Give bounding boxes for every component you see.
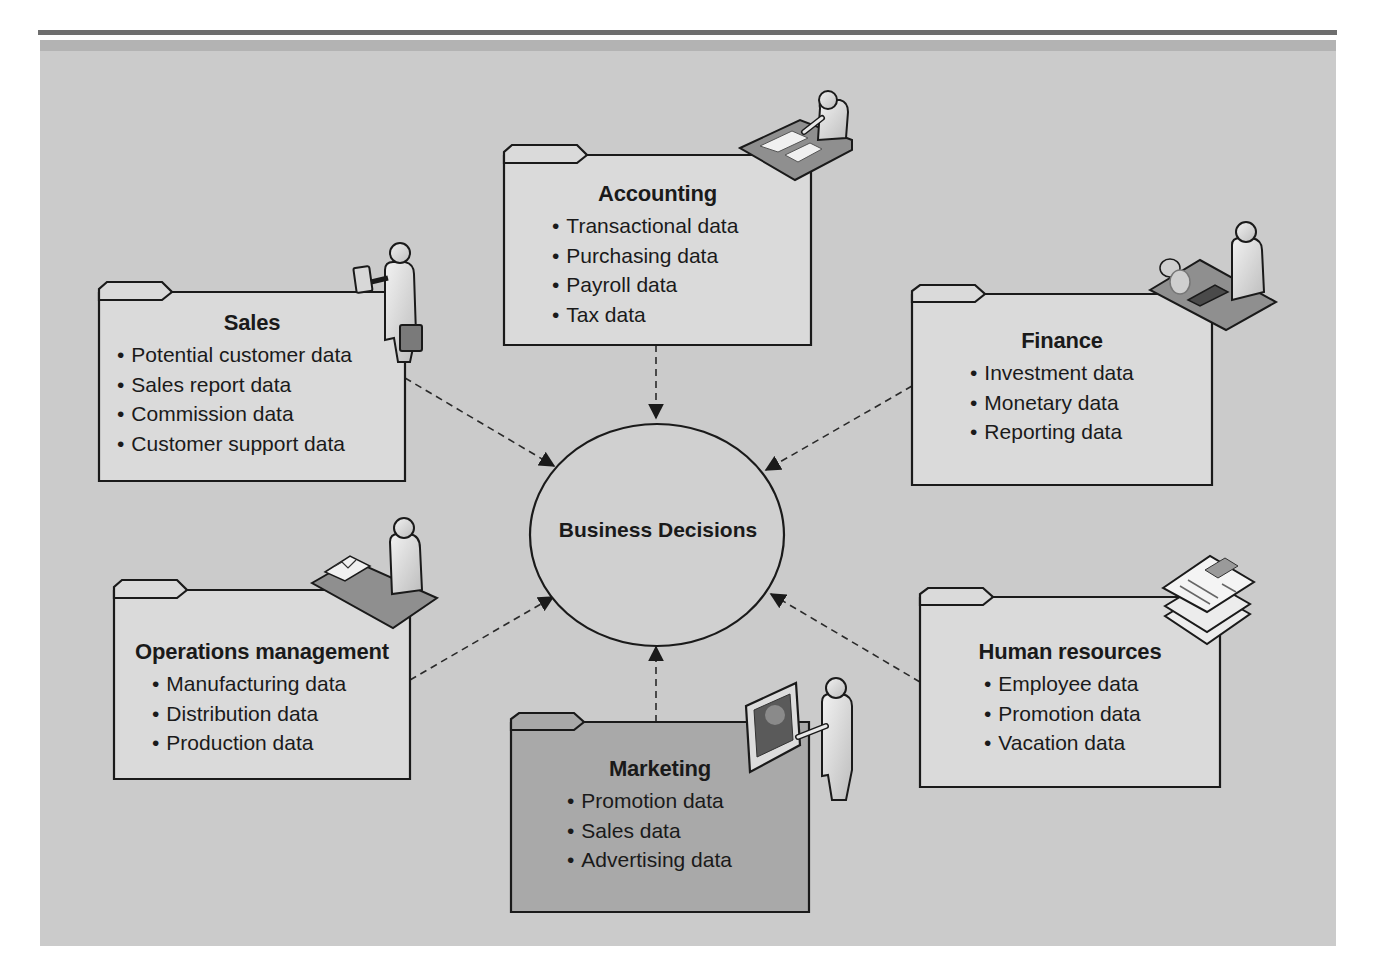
list-item: Potential customer data xyxy=(117,340,405,370)
list-item: Promotion data xyxy=(567,786,809,816)
item-list: Manufacturing data Distribution data Pro… xyxy=(152,669,410,758)
card-finance: Finance Investment data Monetary data Re… xyxy=(912,328,1212,447)
list-item: Sales data xyxy=(567,816,809,846)
list-item: Reporting data xyxy=(970,417,1212,447)
list-item: Production data xyxy=(152,728,410,758)
list-item: Payroll data xyxy=(552,270,811,300)
list-item: Commission data xyxy=(117,399,405,429)
connector-sales xyxy=(405,378,554,466)
item-list: Employee data Promotion data Vacation da… xyxy=(984,669,1220,758)
card-title: Accounting xyxy=(504,181,811,207)
card-sales: Sales Potential customer data Sales repo… xyxy=(99,310,405,458)
item-list: Promotion data Sales data Advertising da… xyxy=(567,786,809,875)
card-title: Marketing xyxy=(511,756,809,782)
card-operations: Operations management Manufacturing data… xyxy=(114,639,410,758)
item-list: Potential customer data Sales report dat… xyxy=(117,340,405,458)
card-title: Operations management xyxy=(114,639,410,665)
list-item: Transactional data xyxy=(552,211,811,241)
item-list: Transactional data Purchasing data Payro… xyxy=(552,211,811,329)
item-list: Investment data Monetary data Reporting … xyxy=(970,358,1212,447)
list-item: Employee data xyxy=(984,669,1220,699)
list-item: Manufacturing data xyxy=(152,669,410,699)
connector-hr xyxy=(771,594,920,682)
card-title: Sales xyxy=(99,310,405,336)
list-item: Promotion data xyxy=(984,699,1220,729)
list-item: Tax data xyxy=(552,300,811,330)
list-item: Vacation data xyxy=(984,728,1220,758)
list-item: Investment data xyxy=(970,358,1212,388)
list-item: Distribution data xyxy=(152,699,410,729)
card-title: Finance xyxy=(912,328,1212,354)
list-item: Monetary data xyxy=(970,388,1212,418)
card-hr: Human resources Employee data Promotion … xyxy=(920,639,1220,758)
business-decisions-label: Business Decisions xyxy=(530,518,786,542)
card-title: Human resources xyxy=(920,639,1220,665)
list-item: Sales report data xyxy=(117,370,405,400)
card-marketing: Marketing Promotion data Sales data Adve… xyxy=(511,756,809,875)
card-accounting: Accounting Transactional data Purchasing… xyxy=(504,181,811,329)
connector-finance xyxy=(766,386,912,470)
connector-operations xyxy=(410,597,553,680)
list-item: Customer support data xyxy=(117,429,405,459)
list-item: Advertising data xyxy=(567,845,809,875)
list-item: Purchasing data xyxy=(552,241,811,271)
